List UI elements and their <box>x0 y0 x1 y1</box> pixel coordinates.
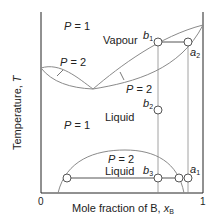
dome-right-marker <box>175 174 183 182</box>
tie-tick-right <box>120 72 124 80</box>
label-p2-right: P = 2 <box>126 83 152 95</box>
point-a1-marker <box>184 174 192 182</box>
label-liquid-upper: Liquid <box>105 111 134 123</box>
point-b2-marker <box>154 106 162 114</box>
label-p1-mid: P = 1 <box>64 119 90 131</box>
x-axis-label: Mole fraction of B, xB <box>72 202 174 215</box>
phase-diagram: P = 1 Vapour P = 2 P = 2 P = 1 Liquid P … <box>0 0 213 221</box>
label-liquid-lower: Liquid <box>105 165 134 177</box>
label-p2-left: P = 2 <box>60 56 86 68</box>
y-axis-label: Temperature, T <box>11 74 23 150</box>
point-a2-marker <box>184 38 192 46</box>
label-a1: a1 <box>190 163 200 176</box>
x-tick-0: 0 <box>38 196 44 207</box>
x-tick-1: 1 <box>200 196 206 207</box>
dew-curve-left <box>41 67 93 89</box>
label-b1: b1 <box>143 29 153 42</box>
point-b3-marker <box>154 174 162 182</box>
point-b1-marker <box>154 38 162 46</box>
label-b2: b2 <box>143 97 153 110</box>
label-b3: b3 <box>143 164 153 177</box>
tie-tick-left <box>57 70 63 76</box>
label-vapour: Vapour <box>103 34 138 46</box>
dome-left-marker <box>63 174 71 182</box>
label-a2: a2 <box>190 46 200 59</box>
label-p2-dome: P = 2 <box>108 153 134 165</box>
label-p1-top: P = 1 <box>64 20 90 32</box>
